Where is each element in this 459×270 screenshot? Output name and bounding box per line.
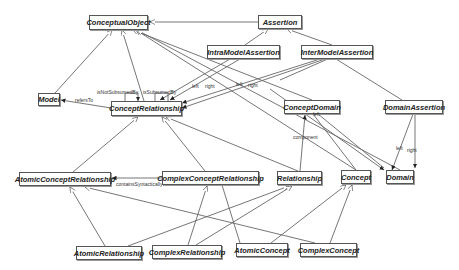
class-node-domain-assertion: DomainAssertion	[385, 100, 443, 114]
edge-label: right	[205, 83, 215, 89]
edge-label: isSubsumedBy	[143, 89, 176, 95]
edge-label: component	[293, 134, 318, 140]
class-node-relationship: Relationship	[277, 171, 322, 185]
class-node-concept: Concept	[341, 170, 371, 184]
edge-label: left	[313, 111, 320, 117]
edge-label: left	[192, 83, 199, 89]
edge-label: right	[407, 147, 417, 153]
class-node-complex-concept: ComplexConcept	[300, 243, 357, 257]
edge-label: left	[236, 81, 243, 87]
class-node-model: Model	[38, 93, 60, 106]
class-node-complex-relationship: ComplexRelationship	[152, 245, 222, 259]
diagram-edges	[0, 0, 459, 270]
class-node-inter-model-assertion: InterModelAssertion	[301, 45, 373, 59]
class-node-domain: Domain	[386, 170, 414, 184]
edge-label: right	[248, 82, 258, 88]
class-node-concept-relationship: ConceptRelationship	[111, 101, 182, 116]
edge-label: left	[396, 145, 403, 151]
class-node-atomic-concept: AtomicConcept	[236, 243, 288, 257]
edge-label: isNotSubsumedBy	[97, 89, 138, 95]
class-node-intra-model-assertion: IntraModelAssertion	[207, 45, 280, 59]
class-node-atomic-relationship: AtomicRelationship	[76, 246, 142, 260]
class-node-conceptual-object: ConceptualObject	[89, 15, 148, 30]
class-node-atomic-concept-relationship: AtomicConceptRelationship	[19, 172, 111, 186]
class-node-assertion: Assertion	[258, 15, 302, 29]
class-node-concept-domain: ConceptDomain	[284, 100, 340, 114]
class-node-complex-concept-relationship: ComplexConceptRelationship	[162, 171, 259, 185]
edge-label: containsSyntactically	[116, 181, 162, 187]
edge-label: refersTo	[75, 97, 93, 103]
